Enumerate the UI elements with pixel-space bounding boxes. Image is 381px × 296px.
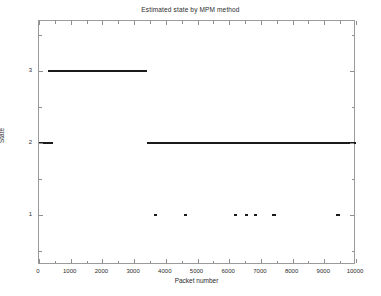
x-axis-tick-label: 1000 xyxy=(63,268,76,274)
x-axis-tick-top xyxy=(324,21,325,25)
x-axis-minor-tick xyxy=(55,261,56,264)
x-axis-minor-tick xyxy=(150,261,151,264)
x-axis-minor-tick-top xyxy=(150,21,151,24)
y-axis-tick xyxy=(39,143,43,144)
x-axis-minor-tick-top xyxy=(55,21,56,24)
y-axis-label: State xyxy=(0,128,5,143)
x-axis-tick xyxy=(356,259,357,263)
x-axis-tick-top xyxy=(71,21,72,25)
state-segment xyxy=(147,142,356,144)
x-axis-tick xyxy=(229,259,230,263)
x-axis-tick xyxy=(71,259,72,263)
state-one-mark xyxy=(336,214,339,216)
x-axis-tick xyxy=(39,259,40,263)
x-axis-tick-top xyxy=(39,21,40,25)
y-axis-tick-label: 2 xyxy=(16,139,32,145)
x-axis-tick-label: 2000 xyxy=(95,268,108,274)
y-axis-minor-tick xyxy=(39,35,42,36)
y-axis-minor-tick-right xyxy=(352,107,355,108)
x-axis-minor-tick-top xyxy=(182,21,183,24)
x-axis-tick xyxy=(166,259,167,263)
y-axis-minor-tick xyxy=(39,251,42,252)
y-axis-tick-right xyxy=(350,215,354,216)
y-axis-tick-right xyxy=(350,71,354,72)
state-one-mark xyxy=(254,214,257,216)
x-axis-minor-tick-top xyxy=(340,21,341,24)
x-axis-tick-top xyxy=(229,21,230,25)
y-axis-tick-label: 3 xyxy=(16,67,32,73)
x-axis-tick-top xyxy=(356,21,357,25)
x-axis-minor-tick xyxy=(277,261,278,264)
x-axis-tick-label: 6000 xyxy=(222,268,235,274)
x-axis-tick-label: 5000 xyxy=(190,268,203,274)
x-axis-label: Packet number xyxy=(38,277,355,284)
x-axis-minor-tick-top xyxy=(87,21,88,24)
y-axis-minor-tick-right xyxy=(352,179,355,180)
x-axis-tick xyxy=(198,259,199,263)
x-axis-minor-tick xyxy=(245,261,246,264)
x-axis-tick-top xyxy=(134,21,135,25)
state-segment xyxy=(48,70,147,72)
state-one-mark xyxy=(184,214,187,216)
y-axis-minor-tick-right xyxy=(352,251,355,252)
data-series-layer xyxy=(39,21,354,263)
x-axis-tick-label: 9000 xyxy=(317,268,330,274)
x-axis-tick-label: 4000 xyxy=(158,268,171,274)
x-axis-tick-label: 0 xyxy=(36,268,39,274)
plot-area xyxy=(38,20,355,264)
chart-figure: Estimated state by MPM method 0100020003… xyxy=(0,0,381,296)
x-axis-minor-tick-top xyxy=(308,21,309,24)
x-axis-minor-tick xyxy=(118,261,119,264)
x-axis-tick-label: 3000 xyxy=(126,268,139,274)
x-axis-tick-label: 8000 xyxy=(285,268,298,274)
y-axis-tick xyxy=(39,215,43,216)
x-axis-tick-top xyxy=(102,21,103,25)
chart-title: Estimated state by MPM method xyxy=(0,6,381,13)
x-axis-minor-tick xyxy=(182,261,183,264)
x-axis-tick-top xyxy=(198,21,199,25)
x-axis-tick-top xyxy=(293,21,294,25)
x-axis-tick-top xyxy=(261,21,262,25)
x-axis-tick xyxy=(261,259,262,263)
x-axis-tick-top xyxy=(166,21,167,25)
state-one-mark xyxy=(234,214,237,216)
x-axis-tick xyxy=(293,259,294,263)
x-axis-tick-label: 10000 xyxy=(347,268,364,274)
x-axis-minor-tick-top xyxy=(277,21,278,24)
x-axis-minor-tick xyxy=(308,261,309,264)
y-axis-minor-tick xyxy=(39,179,42,180)
x-axis-tick xyxy=(102,259,103,263)
x-axis-minor-tick-top xyxy=(213,21,214,24)
x-axis-tick xyxy=(324,259,325,263)
x-axis-minor-tick xyxy=(213,261,214,264)
x-axis-tick xyxy=(134,259,135,263)
x-axis-tick-label: 7000 xyxy=(253,268,266,274)
x-axis-minor-tick-top xyxy=(118,21,119,24)
state-one-mark xyxy=(272,214,276,216)
y-axis-minor-tick xyxy=(39,107,42,108)
x-axis-minor-tick-top xyxy=(245,21,246,24)
y-axis-tick xyxy=(39,71,43,72)
x-axis-minor-tick xyxy=(340,261,341,264)
state-one-mark xyxy=(154,214,157,216)
state-one-mark xyxy=(245,214,248,216)
x-axis-minor-tick xyxy=(87,261,88,264)
y-axis-minor-tick-right xyxy=(352,35,355,36)
y-axis-tick-label: 1 xyxy=(16,211,32,217)
y-axis-tick-right xyxy=(350,143,354,144)
